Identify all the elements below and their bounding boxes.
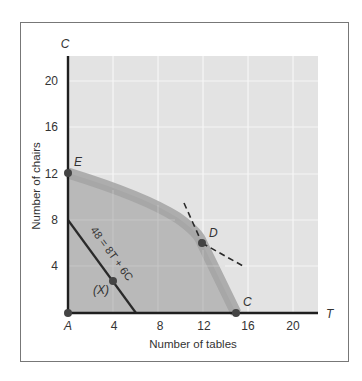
- x-tick-12: 12: [197, 319, 211, 333]
- point-d-label: D: [209, 226, 218, 240]
- point-c: [232, 309, 240, 317]
- y-tick-8: 8: [51, 213, 58, 227]
- x-axis-symbol: T: [326, 307, 335, 321]
- y-tick-20: 20: [45, 74, 59, 88]
- point-a-label: A: [63, 319, 72, 333]
- x-tick-4: 4: [111, 319, 118, 333]
- x-tick-16: 16: [241, 319, 255, 333]
- point-c-label: C: [243, 295, 252, 309]
- point-a: [64, 309, 72, 317]
- production-possibility-chart: C T 4 8 12 16 20 A 4 8 12 16 20 E D C (X…: [0, 0, 362, 381]
- y-axis-symbol: C: [61, 37, 70, 51]
- y-tick-4: 4: [51, 259, 58, 273]
- x-tick-20: 20: [286, 319, 300, 333]
- point-x: [109, 277, 117, 285]
- x-tick-8: 8: [157, 319, 164, 333]
- x-axis-title: Number of tables: [149, 338, 237, 350]
- y-tick-16: 16: [45, 120, 59, 134]
- y-axis-title: Number of chairs: [30, 142, 42, 230]
- y-tick-12: 12: [45, 167, 59, 181]
- point-d: [198, 239, 206, 247]
- point-x-label: (X): [93, 283, 109, 297]
- point-e: [64, 169, 72, 177]
- point-e-label: E: [74, 155, 83, 169]
